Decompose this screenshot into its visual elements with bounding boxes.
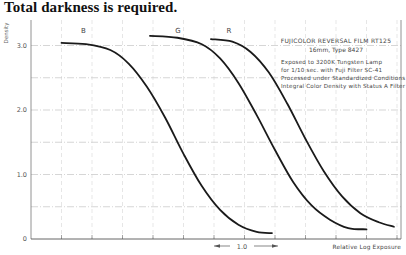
y-tick-label: 3.0	[17, 42, 27, 50]
y-tick-label: 0	[23, 235, 27, 243]
characteristic-curve-chart: BGR Density 01.02.03.0 FUJICOLOR REVERSA…	[0, 0, 406, 255]
curve-labels: BGR	[81, 27, 231, 35]
curve-label-g: G	[175, 27, 180, 35]
chart-subtitle: 16mm, Type 8427	[309, 46, 363, 54]
annotation-line-3: Processed under Standardized Conditions	[281, 75, 405, 81]
y-tick-labels: 01.02.03.0	[17, 42, 27, 244]
annotation-line-1: Exposed to 3200K Tungsten Lamp	[281, 59, 382, 66]
curve-b	[62, 43, 272, 233]
annotation-line-2: for 1/10 sec. with Fuji Filter SC-41	[281, 67, 382, 74]
y-tick-label: 2.0	[17, 106, 27, 114]
y-tick-label: 1.0	[17, 171, 27, 179]
curve-label-b: B	[81, 27, 86, 35]
density-curves	[62, 36, 394, 233]
annotation-line-4: Integral Color Density with Status A Fil…	[281, 83, 406, 90]
chart-title: FUJICOLOR REVERSAL FILM RT125	[281, 37, 392, 45]
curve-label-r: R	[227, 27, 232, 35]
x-axis-label: Relative Log Exposure	[333, 244, 402, 251]
scale-bar-1-log-exposure: 1.0	[214, 243, 278, 251]
scale-bar-label: 1.0	[237, 243, 247, 251]
y-axis-label: Density	[3, 22, 10, 44]
